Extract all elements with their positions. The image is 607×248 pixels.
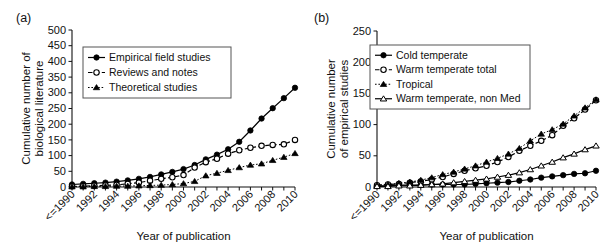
y-axis-title-line: of empirical studies — [338, 60, 350, 159]
data-point — [170, 175, 175, 180]
data-point — [527, 138, 533, 143]
chart-panel-b: (b)050100150200250<=19901992199419961998… — [304, 0, 607, 248]
chart-svg-b: (b)050100150200250<=19901992199419961998… — [304, 0, 607, 248]
data-point — [517, 178, 522, 183]
data-point — [528, 143, 533, 148]
x-tick-label: <=1990 — [42, 188, 77, 223]
x-tick-label: <=1990 — [347, 188, 382, 223]
legend-label: Empirical field studies — [109, 51, 211, 63]
data-point — [225, 151, 230, 156]
data-point — [203, 173, 209, 178]
panel-label: (b) — [314, 11, 329, 25]
x-tick-label: 2010 — [274, 188, 300, 214]
data-point — [170, 169, 175, 174]
y-tick-label: 350 — [48, 71, 66, 83]
data-point — [495, 180, 500, 185]
data-point — [506, 179, 511, 184]
panel-label: (a) — [16, 11, 31, 25]
data-point — [237, 148, 242, 153]
data-point — [539, 175, 544, 180]
data-point — [269, 157, 275, 162]
data-point — [158, 182, 164, 187]
x-tick-label: 1996 — [422, 188, 448, 214]
data-point — [505, 151, 511, 156]
x-tick-label: 1998 — [444, 188, 470, 214]
data-point — [259, 116, 264, 121]
y-axis-title-line: Cumulative number of — [20, 51, 32, 164]
data-point — [180, 181, 186, 186]
y-tick-label: 500 — [48, 24, 66, 36]
x-tick-label: 1994 — [96, 188, 122, 214]
x-tick-label: 2008 — [553, 188, 579, 214]
x-tick-label: 2004 — [509, 188, 535, 214]
data-point — [593, 143, 599, 148]
y-tick-label: 400 — [48, 55, 66, 67]
x-tick-label: 2010 — [575, 188, 601, 214]
data-point — [550, 174, 555, 179]
y-tick-label: 200 — [48, 118, 66, 130]
data-point — [582, 171, 587, 176]
data-point — [550, 133, 555, 138]
data-point — [281, 95, 286, 100]
y-tick-label: 250 — [48, 102, 66, 114]
data-point — [560, 172, 565, 177]
y-tick-label: 450 — [48, 39, 66, 51]
x-tick-label: 2000 — [163, 188, 189, 214]
x-tick-label: 1994 — [400, 188, 426, 214]
data-point — [281, 142, 286, 147]
data-point — [181, 166, 186, 171]
data-point — [571, 171, 576, 176]
y-tick-label: 50 — [54, 165, 66, 177]
data-point — [214, 156, 219, 161]
x-tick-label: 1996 — [118, 188, 144, 214]
x-axis-title: Year of publication — [439, 230, 533, 242]
y-tick-label: 200 — [353, 56, 371, 68]
chart-panel-a: (a)050100150200250300350400450500<=19901… — [0, 0, 303, 248]
data-point — [549, 127, 555, 132]
figure-container: (a)050100150200250300350400450500<=19901… — [0, 0, 607, 248]
y-tick-label: 150 — [353, 87, 371, 99]
x-tick-label: 2006 — [230, 188, 256, 214]
x-tick-label: 2002 — [185, 188, 211, 214]
legend-label: Reviews and notes — [109, 66, 198, 78]
data-point — [528, 177, 533, 182]
legend: Empirical field studiesReviews and notes… — [83, 47, 231, 98]
x-tick-label: 2004 — [207, 188, 233, 214]
data-point — [259, 143, 264, 148]
legend-label: Warm temperate, non Med — [396, 92, 521, 104]
y-tick-label: 50 — [359, 149, 371, 161]
legend-marker — [381, 67, 386, 72]
legend-marker — [381, 53, 386, 58]
x-tick-label: 1998 — [140, 188, 166, 214]
y-axis-title-line: biological literature — [33, 61, 45, 157]
y-tick-label: 150 — [48, 134, 66, 146]
legend-marker — [94, 55, 99, 60]
data-point — [538, 131, 544, 136]
data-point — [292, 137, 297, 142]
legend: Cold temperateWarm temperate totalTropic… — [370, 45, 530, 109]
data-point — [248, 145, 253, 150]
data-point — [214, 170, 220, 175]
legend-label: Theoretical studies — [109, 81, 197, 93]
data-point — [539, 138, 544, 143]
x-tick-label: 2002 — [488, 188, 514, 214]
data-point — [292, 85, 297, 90]
data-point — [270, 142, 275, 147]
data-point — [494, 155, 500, 160]
x-tick-label: 2006 — [531, 188, 557, 214]
legend-marker — [94, 70, 99, 75]
y-tick-label: 100 — [48, 149, 66, 161]
data-point — [203, 159, 208, 164]
legend-label: Warm temperate total — [396, 63, 497, 75]
legend-label: Tropical — [396, 78, 433, 90]
data-point — [270, 105, 275, 110]
data-point — [191, 178, 197, 183]
data-point — [237, 139, 242, 144]
y-tick-label: 250 — [353, 25, 371, 37]
data-point — [248, 128, 253, 133]
legend-label: Cold temperate — [396, 49, 468, 61]
x-tick-label: 2000 — [466, 188, 492, 214]
data-point — [236, 165, 242, 170]
y-tick-label: 300 — [48, 86, 66, 98]
data-point — [483, 159, 489, 164]
